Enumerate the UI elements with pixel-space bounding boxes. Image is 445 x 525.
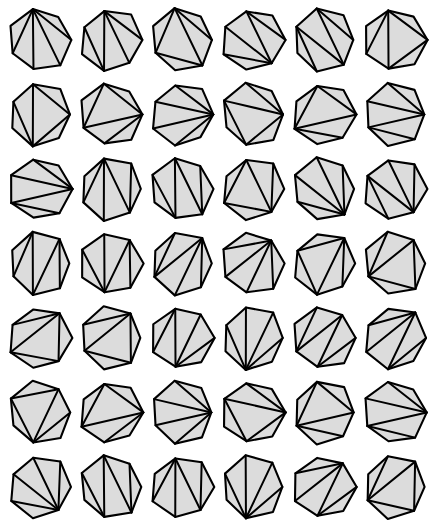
heptagon-cell [295, 307, 356, 366]
heptagon-outline [11, 381, 70, 443]
heptagon-cell [11, 160, 72, 218]
figure-root: Triangulations of a convex heptagon All … [0, 0, 445, 525]
heptagon-cell [11, 458, 71, 519]
heptagon-outline [154, 233, 211, 295]
heptagon-outline [368, 456, 425, 519]
heptagon-cell [153, 158, 214, 218]
heptagon-cell [153, 458, 215, 516]
heptagon-cell [366, 11, 427, 69]
heptagon-cell [153, 86, 213, 146]
heptagon-cell [12, 84, 70, 146]
heptagon-cell [82, 234, 143, 292]
heptagon-cell [295, 157, 354, 219]
heptagon-cell [295, 86, 357, 144]
heptagon-cell [368, 456, 425, 519]
heptagon-outline [82, 384, 144, 442]
heptagon-outline [224, 233, 285, 293]
heptagon-outline [296, 8, 353, 71]
heptagon-cell [82, 384, 144, 442]
heptagon-cell [367, 83, 424, 146]
heptagon-diagonal [414, 164, 415, 212]
heptagon-cell [224, 160, 284, 220]
heptagon-diagonal [59, 313, 60, 361]
heptagon-cell [297, 382, 354, 445]
heptagon-cell [366, 382, 427, 441]
heptagon-cell [226, 307, 283, 369]
heptagon-cell [225, 455, 282, 518]
heptagon-cell [295, 458, 357, 516]
heptagon-diagonal [175, 158, 176, 218]
heptagon-cell [366, 160, 428, 218]
heptagon-outline [297, 382, 354, 445]
heptagon-cell [366, 232, 425, 294]
heptagon-diagonal [200, 462, 201, 510]
heptagon-cell [224, 383, 286, 441]
heptagon-outline [83, 159, 140, 221]
heptagon-cell [366, 309, 426, 369]
heptagon-cell [224, 11, 286, 69]
heptagon-outline [225, 455, 282, 518]
heptagon-cell [82, 455, 141, 517]
heptagon-outline [366, 11, 427, 69]
heptagon-outline [153, 458, 215, 516]
heptagon-outline [367, 83, 424, 146]
heptagon-cell [11, 9, 72, 69]
heptagon-diagonal [130, 164, 131, 213]
heptagon-cell [82, 84, 143, 144]
heptagon-outline [82, 455, 141, 517]
heptagon-diagonal [201, 238, 202, 287]
heptagon-outline [82, 234, 143, 292]
heptagon-diagonal [33, 9, 34, 69]
heptagon-outline [153, 309, 215, 367]
heptagon-outline [12, 84, 70, 146]
heptagon-cell [153, 8, 212, 70]
heptagon-diagonal [130, 240, 131, 288]
heptagon-outline [224, 83, 283, 145]
heptagon-diagonal [104, 455, 105, 517]
heptagon-cell [83, 159, 140, 221]
heptagon-cell [11, 381, 70, 443]
heptagon-outline [154, 381, 211, 444]
heptagon-cell [12, 232, 69, 295]
heptagon-outline [224, 383, 286, 441]
heptagon-cell [11, 309, 73, 367]
heptagon-cell [295, 234, 355, 294]
heptagon-cell [296, 8, 353, 71]
heptagon-outline [11, 458, 71, 519]
heptagon-cell [224, 83, 283, 145]
heptagon-outline [226, 307, 283, 369]
heptagon-cell [224, 233, 285, 293]
heptagon-cell [154, 381, 211, 444]
heptagon-cell [153, 309, 215, 367]
heptagon-outline [153, 158, 214, 218]
heptagon-cell [82, 11, 142, 71]
heptagon-cell [154, 233, 211, 295]
triangulation-grid: Triangulations of a convex heptagon All … [0, 0, 445, 525]
heptagon-cells-layer [11, 8, 428, 519]
heptagon-cell [83, 306, 140, 369]
heptagon-diagonal [414, 462, 415, 511]
heptagon-outline [224, 160, 284, 220]
